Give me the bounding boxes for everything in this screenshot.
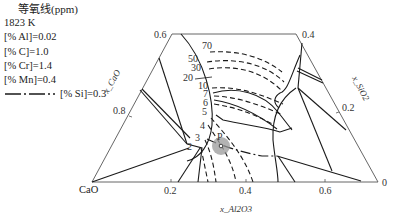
contour-label-3: 3 bbox=[195, 132, 200, 143]
point-p-marker bbox=[219, 144, 223, 148]
contour-label-70: 70 bbox=[202, 40, 212, 51]
axis-title-sio2: x_SiO2 bbox=[350, 73, 372, 102]
boundary-line-2a bbox=[140, 90, 187, 144]
tick-label-right-0: 0 bbox=[382, 177, 387, 188]
contour-2 bbox=[201, 148, 208, 182]
tick-left-0.8 bbox=[129, 116, 132, 117]
boundary-vertical-right bbox=[298, 43, 302, 88]
cao-tie-line bbox=[92, 148, 189, 182]
axis-title-cao: x_CaO bbox=[101, 67, 123, 95]
leader-20 bbox=[195, 77, 212, 79]
boundary-lower-right bbox=[277, 156, 361, 181]
tick-label-left-0.8: 0.8 bbox=[113, 105, 126, 116]
contour-label-5: 5 bbox=[202, 106, 207, 117]
boundary-right-top-b bbox=[297, 71, 323, 83]
ternary-diagram: 0.2 0.4 0.6 0.8 0.6 0.4 0.2 0 x_CaO x_Si… bbox=[0, 0, 398, 222]
boundary-arc bbox=[213, 90, 292, 130]
tick-label-left-0.6: 0.6 bbox=[154, 29, 167, 40]
boundary-upper-right bbox=[275, 55, 300, 108]
boundary-to-right bbox=[298, 88, 346, 130]
boundary-lower-left-2 bbox=[178, 148, 200, 182]
tick-label-bottom-0.6: 0.6 bbox=[319, 185, 332, 196]
iso-oxygen-contours bbox=[201, 52, 284, 182]
boundary-lower-right-2 bbox=[278, 156, 295, 182]
contour-label-4: 4 bbox=[200, 120, 205, 131]
right-edge bbox=[296, 34, 378, 182]
tick-label-right-0.4: 0.4 bbox=[302, 29, 315, 40]
tick-label-bottom-0.2: 0.2 bbox=[164, 185, 177, 196]
contour-70 bbox=[210, 52, 282, 72]
axis-title-al2o3: x_Al2O3 bbox=[219, 204, 252, 214]
contour-50 bbox=[207, 61, 284, 82]
boundary-right-dome bbox=[273, 88, 296, 182]
boundary-line-2b bbox=[142, 89, 190, 138]
tick-right-0.2 bbox=[336, 112, 339, 113]
contour-30 bbox=[209, 68, 283, 92]
contour-label-2: 2 bbox=[187, 141, 192, 152]
tick-label-right-0.2: 0.2 bbox=[342, 102, 355, 113]
boundary-mid bbox=[216, 115, 292, 132]
contour-leaders bbox=[195, 77, 212, 79]
boundary-right-diagonal bbox=[298, 88, 332, 171]
tick-label-bottom-0.4: 0.4 bbox=[239, 185, 252, 196]
point-p-label: P bbox=[217, 131, 223, 142]
diagram-frame bbox=[92, 34, 378, 182]
contour-label-20: 20 bbox=[183, 72, 193, 83]
vertex-label-cao: CaO bbox=[79, 184, 99, 195]
